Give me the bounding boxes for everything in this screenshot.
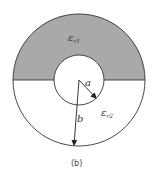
coaxial-cross-section-diagram: εr1 εr2 a b (b)	[0, 0, 153, 182]
figure-caption: (b)	[71, 159, 82, 168]
label-radius-a: a	[85, 77, 91, 88]
label-radius-b: b	[77, 113, 83, 124]
